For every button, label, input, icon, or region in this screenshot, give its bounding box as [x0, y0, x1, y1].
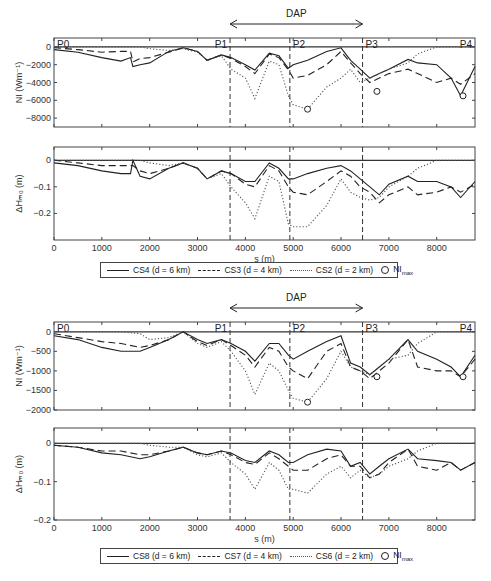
profile-point-label: P4 [460, 323, 473, 334]
legend-bottom: CS8 (d = 6 km) CS7 (d = 4 km) CS6 (d = 2… [100, 548, 398, 564]
series-dotted [54, 443, 475, 493]
series-dotted [54, 47, 475, 109]
legend-item-dotted: CS2 (d = 2 km) [290, 265, 373, 275]
panel-2: 010002000300040005000600070008000s (m)0−… [14, 147, 475, 264]
svg-text:5000: 5000 [283, 243, 303, 253]
svg-text:0: 0 [46, 438, 51, 448]
y-axis-label: NI (Wm⁻¹) [14, 345, 24, 386]
svg-text:0: 0 [46, 42, 51, 52]
dashed-line-swatch-icon [198, 556, 220, 557]
svg-text:4000: 4000 [235, 243, 255, 253]
x-axis-label: s (m) [254, 534, 275, 544]
series-dashed [54, 332, 475, 379]
solid-line-swatch-icon [107, 270, 129, 271]
series-dashed [54, 48, 475, 85]
svg-text:−0.2: −0.2 [33, 208, 51, 218]
svg-text:−8000: −8000 [26, 113, 51, 123]
legend-item-dashed: CS7 (d = 4 km) [198, 551, 281, 561]
series-dotted [54, 160, 475, 226]
svg-text:0: 0 [46, 155, 51, 165]
solid-line-swatch-icon [107, 556, 129, 557]
svg-text:−0.1: −0.1 [33, 477, 51, 487]
legend-item-marker: NImax [381, 264, 413, 276]
svg-text:4000: 4000 [235, 523, 255, 533]
svg-text:5000: 5000 [283, 523, 303, 533]
svg-text:−1500: −1500 [26, 385, 51, 395]
ni-max-marker [305, 399, 311, 405]
legend-item-solid: CS4 (d = 6 km) [107, 265, 190, 275]
legend-label: CS4 (d = 6 km) [133, 265, 190, 275]
legend-label: CS3 (d = 4 km) [224, 265, 281, 275]
y-axis-label: ΔHₘ₀ (m) [14, 455, 24, 493]
svg-text:6000: 6000 [331, 523, 351, 533]
svg-text:0: 0 [51, 523, 56, 533]
series-solid [54, 48, 475, 96]
legend-top: CS4 (d = 6 km) CS3 (d = 4 km) CS2 (d = 2… [100, 262, 398, 278]
profile-point-label: P4 [460, 39, 473, 50]
svg-text:−500: −500 [31, 346, 51, 356]
dotted-line-swatch-icon [290, 270, 312, 271]
ni-max-marker [460, 93, 466, 99]
y-axis-label: ΔHₘ₀ (m) [14, 174, 24, 212]
svg-text:1000: 1000 [92, 523, 112, 533]
profile-point-label: P2 [293, 323, 306, 334]
svg-text:−1000: −1000 [26, 366, 51, 376]
ni-max-marker [374, 374, 380, 380]
svg-text:0: 0 [46, 327, 51, 337]
svg-text:6000: 6000 [331, 243, 351, 253]
dap-label: DAP [286, 8, 307, 19]
circle-marker-icon [381, 266, 389, 274]
dap-label: DAP [286, 292, 307, 303]
profile-point-label: P3 [366, 323, 379, 334]
dotted-line-swatch-icon [290, 556, 312, 557]
svg-text:8000: 8000 [427, 243, 447, 253]
series-dashed [54, 445, 475, 478]
legend-label: CS6 (d = 2 km) [316, 551, 373, 561]
legend-item-marker: NImax [381, 550, 413, 562]
svg-text:1000: 1000 [92, 243, 112, 253]
profile-point-label: P3 [366, 39, 379, 50]
legend-label: CS8 (d = 6 km) [133, 551, 190, 561]
legend-label: NImax [393, 550, 413, 562]
profile-point-label: P2 [293, 39, 306, 50]
svg-text:−0.2: −0.2 [33, 515, 51, 525]
legend-item-dotted: CS6 (d = 2 km) [290, 551, 373, 561]
legend-item-solid: CS8 (d = 6 km) [107, 551, 190, 561]
circle-marker-icon [381, 552, 389, 560]
panel-3: 0−500−1000−1500−2000NI (Wm⁻¹)P0P1P2P3P4D… [14, 292, 475, 415]
series-dashed [54, 160, 475, 203]
profile-point-label: P1 [215, 39, 228, 50]
legend-label: CS7 (d = 4 km) [224, 551, 281, 561]
svg-text:−0.1: −0.1 [33, 182, 51, 192]
svg-text:8000: 8000 [427, 523, 447, 533]
series-solid [54, 445, 475, 474]
dashed-line-swatch-icon [198, 270, 220, 271]
svg-text:7000: 7000 [379, 523, 399, 533]
series-dotted [54, 332, 475, 402]
panel-4: 010002000300040005000600070008000s (m)0−… [14, 428, 475, 544]
svg-text:−6000: −6000 [26, 95, 51, 105]
svg-text:−4000: −4000 [26, 78, 51, 88]
svg-text:3000: 3000 [188, 243, 208, 253]
panel-1: 0−2000−4000−6000−8000NI (Wm⁻¹)P0P1P2P3P4… [14, 8, 475, 127]
profile-point-label: P0 [57, 323, 70, 334]
ni-max-marker [374, 88, 380, 94]
ni-max-marker [460, 374, 466, 380]
svg-text:0: 0 [51, 243, 56, 253]
figure-canvas: 0−2000−4000−6000−8000NI (Wm⁻¹)P0P1P2P3P4… [0, 0, 491, 581]
svg-text:3000: 3000 [188, 523, 208, 533]
profile-point-label: P1 [215, 323, 228, 334]
svg-text:7000: 7000 [379, 243, 399, 253]
svg-text:2000: 2000 [140, 523, 160, 533]
ni-max-marker [305, 106, 311, 112]
legend-label: CS2 (d = 2 km) [316, 265, 373, 275]
svg-text:−2000: −2000 [26, 60, 51, 70]
legend-label: NImax [393, 264, 413, 276]
legend-item-dashed: CS3 (d = 4 km) [198, 265, 281, 275]
y-axis-label: NI (Wm⁻¹) [14, 62, 24, 103]
svg-text:−2000: −2000 [26, 405, 51, 415]
svg-text:2000: 2000 [140, 243, 160, 253]
